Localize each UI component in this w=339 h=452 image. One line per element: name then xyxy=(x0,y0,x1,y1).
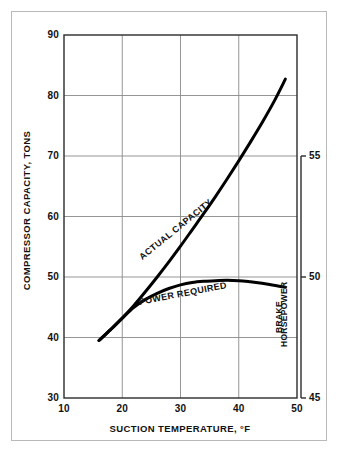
y-axis-tick-label: 40 xyxy=(33,332,59,343)
y-axis-tick-label: 70 xyxy=(33,150,59,161)
y-axis-tick-label: 50 xyxy=(33,271,59,282)
y-axis-tick-label: 60 xyxy=(33,211,59,222)
y2-axis-tick-label: 55 xyxy=(309,150,335,161)
y2-axis-tick-label: 45 xyxy=(309,392,335,403)
curve-annotation-labels: ACTUAL CAPACITYPOWER REQUIRED xyxy=(137,197,228,307)
chart-figure: ACTUAL CAPACITYPOWER REQUIRED 3040506070… xyxy=(0,0,339,452)
x-axis-title: SUCTION TEMPERATURE, °F xyxy=(80,423,280,434)
y-axis-tick-label: 90 xyxy=(33,29,59,40)
x-axis-tick-label: 50 xyxy=(284,403,310,414)
x-axis-tick-label: 30 xyxy=(168,403,194,414)
x-axis-tick-label: 40 xyxy=(226,403,252,414)
x-axis-tick-label: 20 xyxy=(109,403,135,414)
gridlines xyxy=(64,35,297,398)
y-axis-tick-label: 30 xyxy=(33,392,59,403)
y-axis-title: COMPRESSOR CAPACITY, TONS xyxy=(21,111,32,311)
y-axis-tick-label: 80 xyxy=(33,90,59,101)
y2-axis-title-line2: HORSEPOWER xyxy=(279,287,289,347)
chart-plot-area: ACTUAL CAPACITYPOWER REQUIRED xyxy=(0,0,339,452)
y2-axis-tick-label: 50 xyxy=(309,271,335,282)
x-axis-tick-label: 10 xyxy=(51,403,77,414)
right-axis xyxy=(301,156,306,398)
